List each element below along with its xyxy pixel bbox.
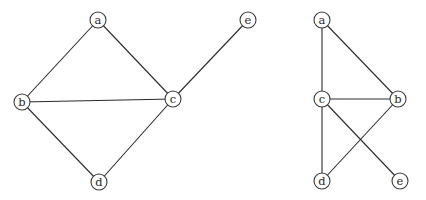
node-label: d bbox=[318, 174, 326, 188]
edge-b-d bbox=[22, 102, 99, 182]
graphs-root: abcdeacbde bbox=[14, 12, 408, 190]
node-label: e bbox=[397, 174, 404, 188]
node-label: d bbox=[95, 175, 103, 189]
edge-a-b bbox=[22, 20, 98, 102]
node-label: b bbox=[394, 92, 401, 106]
graph-right-edges bbox=[322, 20, 400, 181]
node-b: b bbox=[14, 94, 30, 110]
edge-c-d bbox=[99, 99, 173, 182]
node-label: a bbox=[319, 13, 326, 27]
node-d: d bbox=[314, 173, 330, 189]
node-b: b bbox=[390, 91, 406, 107]
node-label: a bbox=[95, 13, 102, 27]
node-a: a bbox=[90, 12, 106, 28]
edge-c-e bbox=[173, 20, 248, 99]
graph-left: abcde bbox=[14, 12, 256, 190]
graph-right: acbde bbox=[314, 12, 408, 189]
node-e: e bbox=[392, 173, 408, 189]
node-a: a bbox=[314, 12, 330, 28]
edge-a-c bbox=[98, 20, 173, 99]
edge-b-c bbox=[22, 99, 173, 102]
graph-diagram-canvas: abcdeacbde bbox=[0, 0, 426, 200]
node-label: b bbox=[18, 95, 25, 109]
node-c: c bbox=[165, 91, 181, 107]
node-label: e bbox=[245, 13, 252, 27]
node-e: e bbox=[240, 12, 256, 28]
graph-right-nodes: acbde bbox=[314, 12, 408, 189]
edge-a-b bbox=[322, 20, 398, 99]
node-label: c bbox=[319, 92, 325, 106]
graph-left-edges bbox=[22, 20, 248, 182]
node-label: c bbox=[170, 92, 176, 106]
node-c: c bbox=[314, 91, 330, 107]
node-d: d bbox=[91, 174, 107, 190]
